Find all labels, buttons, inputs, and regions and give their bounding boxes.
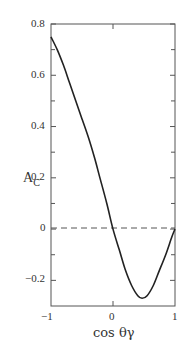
xtick-neg1: −1 [41,310,53,322]
ytick-0.4: 0.4 [31,119,45,131]
plot-frame [51,24,175,306]
axis-ticks [51,24,175,306]
x-axis-label: cos θγ [93,325,135,340]
xtick-1: 1 [172,310,178,322]
asymmetry-curve [51,37,175,299]
ytick-0.6: 0.6 [31,68,45,80]
ytick-0.8: 0.8 [31,17,45,29]
ytick-0: 0 [40,221,46,233]
xtick-0: 0 [109,310,115,322]
ytick-neg0.2: −0.2 [25,272,45,284]
y-axis-label: AC [23,170,40,188]
